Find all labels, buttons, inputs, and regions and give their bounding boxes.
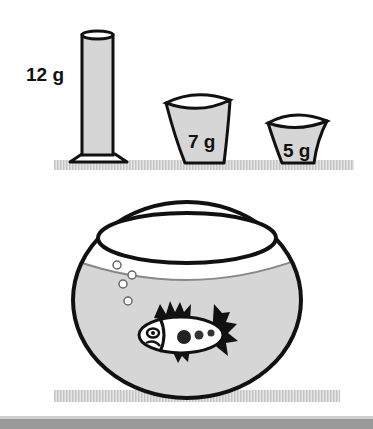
diagram-canvas: 12 g 7 g 5 g	[0, 0, 373, 429]
large-cup	[166, 95, 230, 163]
bubble	[128, 271, 136, 279]
bubble	[119, 280, 127, 288]
fish-spot	[195, 331, 204, 340]
bubble	[124, 297, 132, 305]
graduated-cylinder	[70, 31, 127, 162]
large-cup-label: 7 g	[188, 131, 215, 152]
cylinder-label: 12 g	[26, 64, 64, 85]
fishbowl	[60, 202, 310, 410]
bubble	[113, 261, 121, 269]
fish-spot	[177, 330, 191, 344]
bottom-bar	[0, 418, 373, 429]
small-cup-label: 5 g	[283, 140, 310, 161]
fish-spot	[208, 330, 215, 337]
